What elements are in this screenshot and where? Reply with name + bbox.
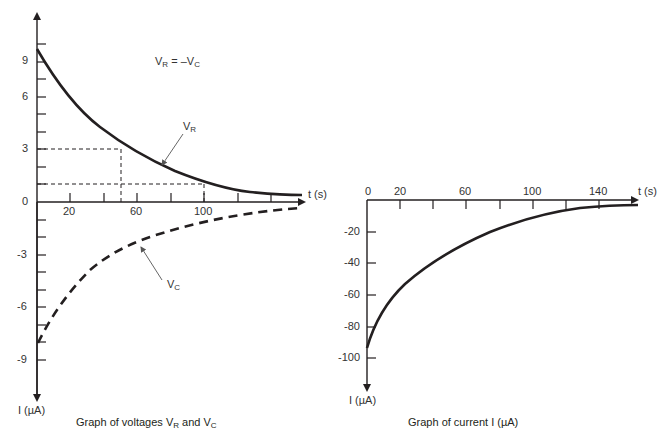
- current-curve: [367, 205, 638, 348]
- right-x-label-20: 20: [394, 185, 406, 197]
- right-x-label-60: 60: [459, 185, 471, 197]
- right-t-axis-label: t (s): [638, 185, 657, 197]
- right-x-label-0: 0: [365, 185, 371, 197]
- vr-label: VR: [183, 120, 196, 134]
- left-y-label-neg6: -6: [17, 300, 27, 312]
- charts-canvas: [0, 0, 668, 445]
- equation-label: VR = –VC: [155, 55, 200, 69]
- left-x-label-20: 20: [63, 205, 75, 217]
- vr-pointer-arrow: [162, 134, 183, 165]
- right-y-ticks: [367, 232, 376, 358]
- left-y-label-3: 3: [22, 142, 28, 154]
- left-t-axis-label: t (s): [308, 188, 327, 200]
- right-y-label-neg40: -40: [344, 256, 360, 268]
- vc-label: VC: [167, 278, 180, 292]
- vr-sub: R: [190, 125, 196, 134]
- left-y-label-neg9: -9: [17, 353, 27, 365]
- right-x-label-140: 140: [589, 185, 607, 197]
- right-caption: Graph of current I (µA): [408, 416, 518, 428]
- left-guide-lines: [37, 149, 204, 202]
- vc-pointer-arrow: [141, 247, 162, 280]
- right-y-label-neg100: -100: [338, 351, 360, 363]
- eq-sub-c: C: [194, 60, 200, 69]
- left-x-ticks: [70, 193, 271, 202]
- right-y-label-neg20: -20: [344, 225, 360, 237]
- left-x-label-60: 60: [130, 205, 142, 217]
- right-x-label-100: 100: [523, 185, 541, 197]
- right-i-axis-label: I (µA): [349, 394, 376, 406]
- left-caption: Graph of voltages VR and VC: [76, 416, 217, 430]
- right-y-label-neg60: -60: [344, 288, 360, 300]
- vc-sub: C: [174, 283, 180, 292]
- left-caption-mid: and V: [179, 416, 211, 428]
- right-x-ticks: [400, 200, 599, 209]
- left-caption-a: Graph of voltages V: [76, 416, 173, 428]
- vr-curve: [37, 49, 302, 195]
- left-y-label-9: 9: [22, 54, 28, 66]
- left-axes: [37, 14, 304, 400]
- left-y-label-neg3: -3: [17, 248, 27, 260]
- eq-mid: = –V: [168, 55, 194, 67]
- left-y-label-6: 6: [22, 90, 28, 102]
- left-i-axis-label: I (µA): [18, 404, 45, 416]
- right-y-label-neg80: -80: [344, 320, 360, 332]
- left-x-label-100: 100: [194, 205, 212, 217]
- vc-curve: [38, 208, 302, 343]
- left-y-label-0: 0: [22, 195, 28, 207]
- left-caption-sub-c: C: [211, 421, 217, 430]
